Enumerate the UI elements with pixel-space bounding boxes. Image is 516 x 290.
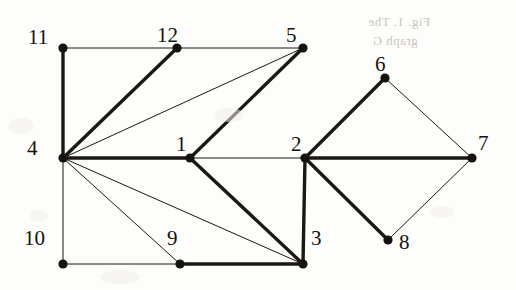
graph-edge xyxy=(385,78,472,158)
graph-edge xyxy=(190,158,303,264)
node-layer xyxy=(58,43,476,268)
bleed-through-text: graph G xyxy=(372,33,418,49)
node-label-3: 3 xyxy=(311,228,322,249)
graph-edge xyxy=(305,78,385,158)
node-label-2: 2 xyxy=(291,134,302,155)
graph-node-7[interactable] xyxy=(467,153,476,162)
node-label-5: 5 xyxy=(286,25,297,46)
graph-edge xyxy=(303,158,305,264)
graph-node-10[interactable] xyxy=(58,259,67,268)
node-label-7: 7 xyxy=(478,133,489,154)
graph-canvas xyxy=(0,0,516,290)
node-label-11: 11 xyxy=(28,27,48,48)
graph-edge xyxy=(388,158,472,240)
node-label-12: 12 xyxy=(157,25,178,46)
graph-edge xyxy=(63,48,177,158)
graph-node-5[interactable] xyxy=(298,43,307,52)
graph-figure: 111256412781093 Fig. 1. Thegraph G xyxy=(0,0,516,290)
graph-edge xyxy=(190,48,303,158)
node-label-1: 1 xyxy=(176,134,187,155)
node-label-9: 9 xyxy=(167,228,178,249)
node-label-4: 4 xyxy=(27,138,38,159)
graph-edge xyxy=(63,158,303,264)
node-label-6: 6 xyxy=(375,54,386,75)
node-label-8: 8 xyxy=(399,232,410,253)
node-label-10: 10 xyxy=(24,228,45,249)
graph-node-9[interactable] xyxy=(175,259,184,268)
graph-node-3[interactable] xyxy=(298,259,307,268)
graph-node-1[interactable] xyxy=(185,153,194,162)
bleed-through-text: Fig. 1. The xyxy=(368,14,430,30)
edge-layer xyxy=(63,48,472,264)
graph-node-8[interactable] xyxy=(383,235,392,244)
graph-edge xyxy=(63,158,180,264)
graph-node-11[interactable] xyxy=(58,43,67,52)
graph-node-4[interactable] xyxy=(58,153,67,162)
graph-node-2[interactable] xyxy=(300,153,309,162)
